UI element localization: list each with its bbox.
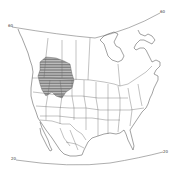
latitude-label-bottom-right: 20 bbox=[163, 150, 168, 154]
north-america-map bbox=[0, 0, 180, 180]
latitude-label-top-left: 60 bbox=[8, 24, 13, 28]
political-borders bbox=[32, 38, 152, 150]
latitude-line-top bbox=[12, 13, 160, 38]
latitude-label-top-right: 60 bbox=[160, 10, 165, 14]
continent-outline bbox=[18, 29, 160, 156]
latitude-label-bottom-left: 20 bbox=[11, 157, 16, 161]
hatched-range-area bbox=[38, 57, 74, 98]
latitude-line-bottom bbox=[16, 152, 163, 165]
